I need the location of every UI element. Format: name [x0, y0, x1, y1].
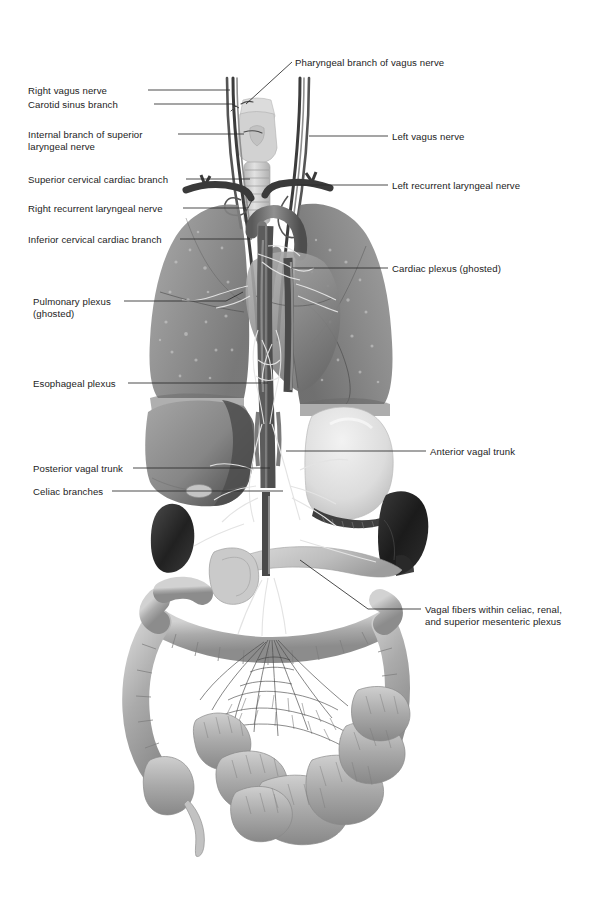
- appendix: [184, 800, 204, 857]
- label-left-recurrent-laryngeal-nerve: Left recurrent laryngeal nerve: [392, 180, 520, 192]
- duodenum: [209, 548, 258, 604]
- label-right-recurrent-laryngeal-nerve: Right recurrent laryngeal nerve: [28, 203, 163, 215]
- label-carotid-sinus-branch: Carotid sinus branch: [28, 99, 118, 111]
- transverse-colon: [158, 622, 384, 650]
- label-right-vagus-nerve: Right vagus nerve: [28, 85, 107, 97]
- small-bowel-loop: [351, 686, 410, 740]
- sma-plexus: [262, 578, 268, 636]
- splenic-flexure: [380, 600, 392, 624]
- label-inferior-cervical-cardiac-branch: Inferior cervical cardiac branch: [28, 234, 162, 246]
- small-bowel-loop: [231, 786, 293, 841]
- label-superior-cervical-cardiac-branch: Superior cervical cardiac branch: [28, 174, 168, 186]
- anterior-vagal-trunk-path: [272, 424, 300, 520]
- hepatic-flexure: [151, 600, 158, 622]
- renal-plexus-right: [194, 524, 244, 546]
- descending-thoracic-aorta: [288, 258, 290, 392]
- label-internal-branch-superior-laryngeal-nerve: Internal branch of superior laryngeal ne…: [28, 129, 143, 152]
- small-intestine-jejunum-ileum: [193, 686, 410, 844]
- intestines-group: [136, 588, 410, 857]
- label-celiac-branches: Celiac branches: [33, 486, 103, 498]
- label-cardiac-plexus-ghosted: Cardiac plexus (ghosted): [392, 263, 501, 275]
- label-left-vagus-nerve: Left vagus nerve: [392, 131, 464, 143]
- label-vagal-fibers-celiac-renal-sma: Vagal fibers within celiac, renal, and s…: [425, 604, 562, 627]
- ascending-colon-upper: [164, 588, 202, 594]
- anatomical-figure: Right vagus nerve Carotid sinus branch I…: [0, 0, 607, 905]
- label-esophageal-plexus: Esophageal plexus: [33, 378, 116, 390]
- label-pharyngeal-branch-of-vagus-nerve: Pharyngeal branch of vagus nerve: [295, 57, 444, 69]
- abdomen-upper-group: [145, 400, 428, 604]
- label-posterior-vagal-trunk: Posterior vagal trunk: [33, 463, 123, 475]
- leader-pharyngeal-branch: [246, 62, 292, 104]
- label-anterior-vagal-trunk: Anterior vagal trunk: [430, 446, 515, 458]
- label-pulmonary-plexus-ghosted: Pulmonary plexus (ghosted): [33, 296, 111, 319]
- right-kidney: [151, 504, 194, 573]
- stomach: [305, 407, 393, 520]
